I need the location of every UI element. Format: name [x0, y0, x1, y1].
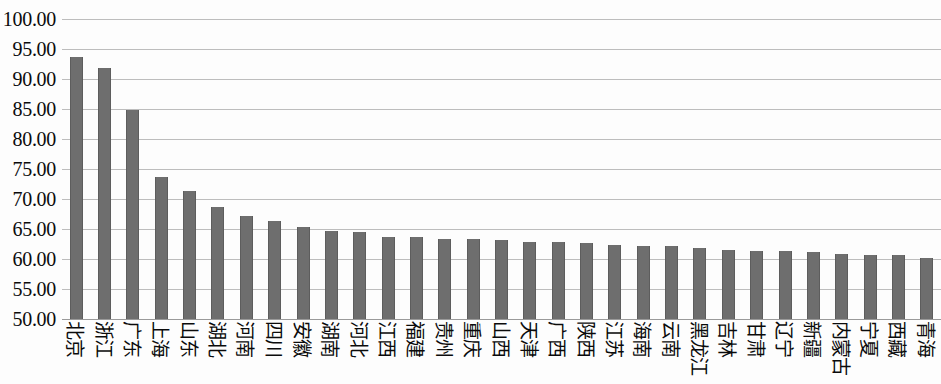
x-tick-label: 贵州	[434, 321, 453, 383]
x-tick-label: 甘肃	[746, 321, 765, 383]
bar	[353, 232, 366, 319]
bar	[126, 110, 139, 319]
bar	[693, 248, 706, 319]
x-tick-label: 上海	[150, 321, 169, 383]
x-tick-label: 山西	[491, 321, 510, 383]
bar	[722, 250, 735, 319]
bar	[892, 255, 905, 319]
bar	[637, 246, 650, 319]
bar	[155, 177, 168, 319]
y-tick-label: 75.00	[12, 159, 56, 179]
y-tick-label: 85.00	[12, 99, 56, 119]
bar	[183, 191, 196, 319]
y-tick-label: 80.00	[12, 129, 56, 149]
x-tick-label: 广西	[547, 321, 566, 383]
x-tick-label: 陕西	[576, 321, 595, 383]
y-tick-label: 70.00	[12, 189, 56, 209]
bar	[495, 240, 508, 319]
x-tick-label: 河北	[349, 321, 368, 383]
x-tick-label: 吉林	[717, 321, 736, 383]
x-tick-label: 天津	[519, 321, 538, 383]
bar	[750, 251, 763, 319]
y-tick-label: 55.00	[12, 279, 56, 299]
bar	[410, 237, 423, 319]
x-tick-label: 广东	[122, 321, 141, 383]
bar	[268, 221, 281, 319]
bars-container	[62, 19, 941, 319]
x-tick-label: 云南	[661, 321, 680, 383]
x-tick-label: 青海	[916, 321, 935, 383]
bar	[552, 242, 565, 319]
bar	[70, 57, 83, 319]
x-tick-label: 河南	[235, 321, 254, 383]
bar	[382, 237, 395, 319]
y-axis: 100.0095.0090.0085.0080.0075.0070.0065.0…	[0, 0, 62, 330]
x-tick-label: 新疆	[802, 321, 821, 383]
x-tick-label: 海南	[632, 321, 651, 383]
bar-chart: 100.0095.0090.0085.0080.0075.0070.0065.0…	[0, 0, 941, 384]
y-tick-label: 95.00	[12, 39, 56, 59]
x-tick-label: 山东	[179, 321, 198, 383]
x-tick-label: 湖南	[320, 321, 339, 383]
plot-area	[62, 19, 941, 319]
bar	[211, 207, 224, 319]
x-tick-label: 宁夏	[859, 321, 878, 383]
bar	[920, 258, 933, 319]
x-axis: 北京浙江广东上海山东湖北河南四川安徽湖南河北江西福建贵州重庆山西天津广西陕西江苏…	[62, 321, 941, 384]
y-tick-label: 50.00	[12, 309, 56, 329]
bar	[523, 242, 536, 319]
bar	[864, 255, 877, 319]
y-tick-label: 65.00	[12, 219, 56, 239]
x-tick-label: 四川	[264, 321, 283, 383]
gridline	[62, 319, 941, 320]
x-tick-label: 江西	[377, 321, 396, 383]
bar	[325, 231, 338, 319]
x-tick-label: 北京	[65, 321, 84, 383]
x-tick-label: 重庆	[462, 321, 481, 383]
y-tick-label: 60.00	[12, 249, 56, 269]
x-tick-label: 西藏	[887, 321, 906, 383]
bar	[779, 251, 792, 319]
x-tick-label: 辽宁	[774, 321, 793, 383]
x-tick-label: 黑龙江	[689, 321, 708, 383]
bar	[98, 68, 111, 319]
x-tick-label: 内蒙古	[831, 321, 850, 383]
bar	[835, 254, 848, 319]
x-tick-label: 福建	[405, 321, 424, 383]
bar	[438, 239, 451, 319]
bar	[608, 245, 621, 319]
x-tick-label: 江苏	[604, 321, 623, 383]
bar	[297, 227, 310, 319]
bar	[240, 216, 253, 319]
x-tick-label: 浙江	[94, 321, 113, 383]
bar	[807, 252, 820, 319]
bar	[665, 246, 678, 319]
x-tick-label: 湖北	[207, 321, 226, 383]
bar	[467, 239, 480, 319]
bar	[580, 243, 593, 319]
x-tick-label: 安徽	[292, 321, 311, 383]
y-tick-label: 100.00	[3, 9, 56, 29]
y-tick-label: 90.00	[12, 69, 56, 89]
